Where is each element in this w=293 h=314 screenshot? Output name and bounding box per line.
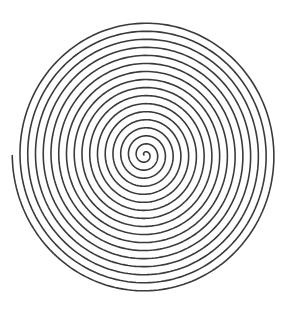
spiral-figure	[0, 0, 293, 314]
figure-canvas	[0, 0, 293, 314]
